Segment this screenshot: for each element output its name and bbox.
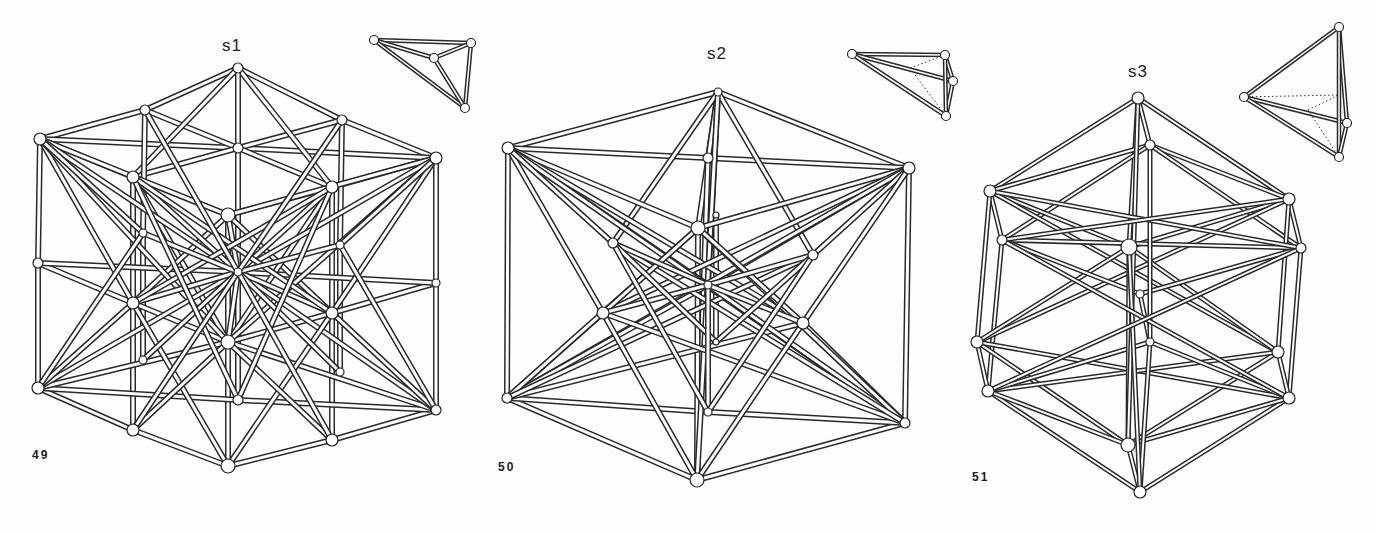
node-joint [233,63,243,73]
inset-node [370,36,379,45]
figure-49-number: 49 [32,448,49,462]
node-joint [690,473,704,487]
polyhedra-illustration [0,0,1376,533]
node-joint [713,339,719,345]
node-joint [502,142,514,154]
rod-edge-fill [40,110,145,139]
rod-edge-fill [143,110,145,233]
node-joint [32,382,44,394]
node-joint [703,153,713,163]
figure-51-number: 51 [972,470,989,484]
rod-edge-fill [38,139,40,263]
node-joint [1132,92,1144,104]
figure-50-wireframe [502,50,958,488]
rod-edge-fill [434,58,465,108]
node-joint [808,250,818,260]
rod-edge-fill [1244,27,1339,97]
rod-edge-fill [718,92,909,168]
node-joint [432,279,440,287]
node-joint [140,105,150,115]
inset-node [942,112,951,121]
inset-node [1335,153,1344,162]
node-joint [1121,438,1135,452]
node-joint [234,268,242,276]
rod-edge-fill [238,68,342,120]
node-joint [502,393,512,403]
inset-node [467,39,476,48]
scanned-page: s1 s2 s3 49 50 51 [0,0,1376,533]
node-joint [984,185,996,197]
rod-edge-fill [852,54,946,116]
node-joint [127,424,139,436]
node-joint [1145,140,1155,150]
rod-edge-fill [1140,398,1289,492]
inset-node [1335,23,1344,32]
node-joint [608,238,618,248]
rod-edge-fill [40,139,238,148]
rod-edge-fill [1244,97,1339,157]
node-joint [997,235,1007,245]
tetrahedron-inset [1240,23,1352,162]
node-joint [127,297,139,309]
inset-node [1343,119,1352,128]
node-joint [430,152,442,164]
rod-edge-fill [708,158,909,168]
rod-edge-fill [990,98,1138,191]
rod-edge-fill [1128,398,1289,445]
node-joint [221,459,235,473]
rod-edge-fill [145,68,238,110]
node-joint [34,133,46,145]
rod-edge-fill [990,145,1150,191]
node-joint [431,405,441,415]
node-joint [714,88,722,96]
figure-50-number: 50 [498,460,515,474]
node-joint [326,434,338,446]
inset-node [461,104,470,113]
node-joint [326,181,338,193]
node-joint [971,336,983,348]
figure-51-title: s3 [1128,62,1148,82]
node-joint [233,143,243,153]
rod-edge-fill [40,139,143,233]
node-joint [797,317,809,329]
rod-edge-fill [133,430,228,466]
node-joint [713,212,719,218]
node-joint [1272,346,1284,358]
node-joint [127,171,139,183]
node-joint [1283,193,1295,205]
rod-edge-fill [977,191,990,342]
tetrahedron-inset [370,36,476,113]
inset-node [941,51,950,60]
rod-edge-fill [1289,248,1301,398]
node-joint [691,221,705,235]
node-joint [336,368,344,376]
rod-edge-fill [603,313,697,480]
inset-node [949,77,958,86]
tetrahedron-inset [848,50,958,121]
rod-edge-fill [332,410,436,440]
node-joint [1296,243,1306,253]
rod-edge-fill [945,55,946,116]
node-joint [1283,392,1295,404]
hidden-edge [1308,95,1339,110]
node-joint [139,356,147,364]
figure-49-wireframe [32,36,476,474]
figure-49-title: s1 [222,36,242,56]
inset-node [430,54,439,63]
rod-edge-fill [38,263,238,272]
node-joint [336,241,344,249]
rod-edge-fill [507,148,508,398]
node-joint [221,335,235,349]
node-joint [1121,239,1137,255]
inset-node [848,50,857,59]
node-joint [982,385,994,397]
rod-edge-fill [1244,97,1347,123]
node-joint [1136,290,1144,298]
node-joint [33,258,43,268]
node-joint [326,307,338,319]
rod-edge-fill [1140,342,1150,492]
rod-edge-fill [852,54,945,55]
node-joint [1146,338,1154,346]
node-joint [597,307,609,319]
node-joint [1134,486,1146,498]
